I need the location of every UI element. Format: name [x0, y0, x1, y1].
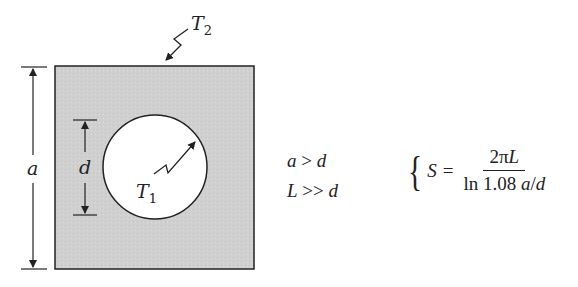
equals-sign: =	[443, 160, 454, 182]
dimension-a-label: a	[27, 157, 38, 179]
condition-a-gt-d: a > d	[287, 148, 326, 173]
t2-label: T2	[191, 12, 212, 38]
numerator: 2πL	[483, 146, 525, 171]
diagram-canvas: a d T2 T1	[0, 0, 578, 287]
shape-factor-formula: { S = 2πL ln 1.08 a/d	[405, 146, 549, 195]
formula-lhs: S	[427, 160, 437, 182]
t2-heat-arrow-icon	[166, 29, 188, 60]
denominator: ln 1.08 a/d	[459, 171, 549, 195]
fraction: 2πL ln 1.08 a/d	[459, 146, 549, 195]
dimension-d-label: d	[79, 156, 91, 178]
brace: {	[408, 150, 422, 192]
condition-L-gg-d: L >> d	[287, 178, 338, 203]
